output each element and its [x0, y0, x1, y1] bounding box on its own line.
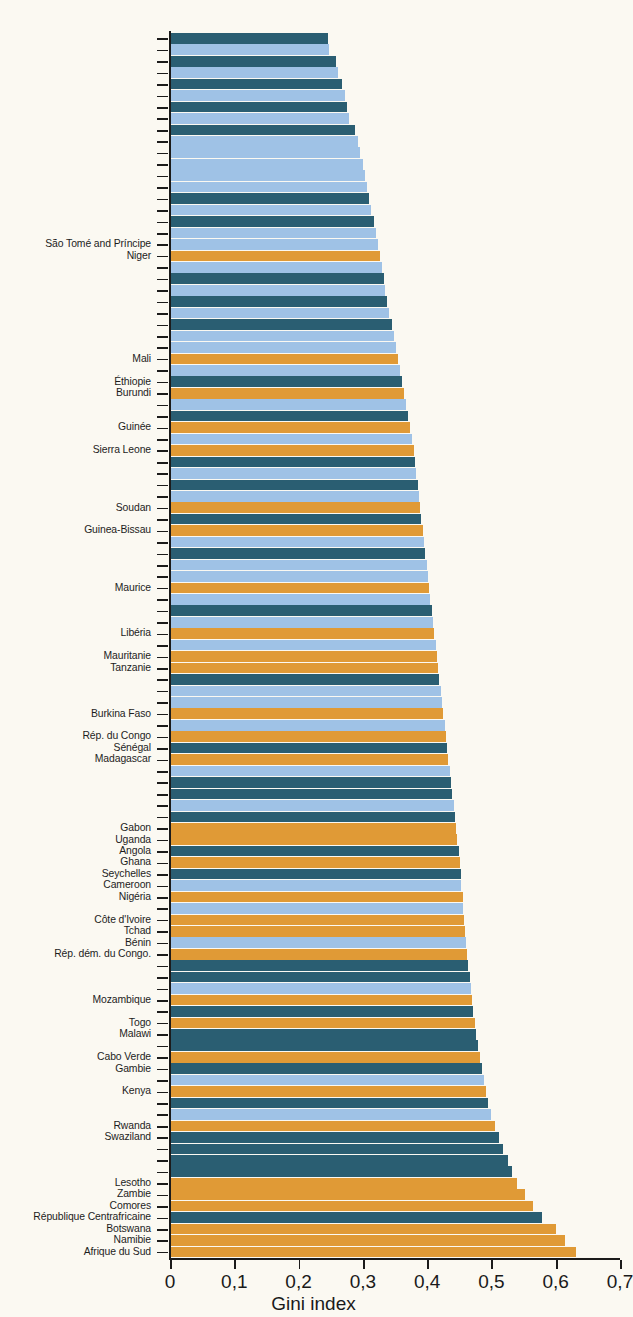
category-label: Cabo Verde — [97, 1052, 151, 1062]
y-axis-tick — [157, 702, 168, 704]
bar — [170, 583, 429, 594]
y-axis-tick — [157, 886, 168, 888]
y-axis-tick — [157, 1149, 168, 1151]
y-axis-tick — [157, 347, 168, 349]
y-axis-tick — [157, 794, 168, 796]
y-axis-tick — [157, 588, 168, 590]
bar — [170, 846, 459, 857]
category-label: Cameroon — [103, 880, 151, 890]
bar — [170, 743, 447, 754]
y-axis-tick — [157, 302, 168, 304]
y-axis-tick — [157, 199, 168, 201]
category-label: Uganda — [115, 835, 151, 845]
bar — [170, 1006, 473, 1017]
bar — [170, 812, 455, 823]
y-axis-tick — [157, 611, 168, 613]
y-axis-tick — [157, 290, 168, 292]
bar — [170, 147, 360, 158]
bar — [170, 182, 367, 193]
category-label: Malawi — [119, 1029, 151, 1039]
bar — [170, 1212, 542, 1223]
bar — [170, 1075, 484, 1086]
y-axis-tick — [157, 485, 168, 487]
category-label: Mali — [132, 354, 151, 364]
bar — [170, 1247, 576, 1258]
category-label: Guinea-Bissau — [84, 525, 151, 535]
y-axis-tick — [157, 1092, 168, 1094]
category-label: Maurice — [115, 583, 151, 593]
bar — [170, 205, 371, 216]
y-axis-tick — [157, 473, 168, 475]
category-label: Burundi — [116, 388, 151, 398]
y-axis-tick — [157, 634, 168, 636]
category-label: Gambie — [115, 1064, 151, 1074]
y-axis-tick — [157, 1080, 168, 1082]
bar — [170, 663, 438, 674]
y-axis-tick — [157, 1126, 168, 1128]
y-axis-spine — [169, 31, 171, 1260]
bar — [170, 388, 404, 399]
bar — [170, 800, 454, 811]
y-axis-tick — [157, 1057, 168, 1059]
x-axis-title: Gini index — [0, 1293, 627, 1314]
bar — [170, 915, 464, 926]
y-axis-tick — [157, 164, 168, 166]
y-axis-tick — [157, 141, 168, 143]
bar — [170, 113, 349, 124]
category-label: Guinée — [118, 422, 151, 432]
bar — [170, 926, 465, 937]
x-axis-tick — [620, 1260, 622, 1269]
y-axis-tick — [157, 977, 168, 979]
bar — [170, 422, 410, 433]
x-axis-tick — [427, 1260, 429, 1269]
category-label: Soudan — [116, 503, 151, 513]
y-axis-tick — [157, 531, 168, 533]
y-axis-tick — [157, 462, 168, 464]
x-axis-tick-label: 0,4 — [414, 1271, 440, 1292]
bar — [170, 880, 461, 891]
bar — [170, 262, 382, 273]
y-axis-tick — [157, 450, 168, 452]
y-axis-tick — [157, 153, 168, 155]
bar — [170, 869, 461, 880]
y-axis-tick — [157, 176, 168, 178]
y-axis-tick — [157, 370, 168, 372]
bar — [170, 1098, 488, 1109]
category-label: Rép. du Congo — [82, 731, 151, 741]
y-axis-tick — [157, 989, 168, 991]
category-label: Tchad — [124, 926, 151, 936]
y-axis-tick — [157, 691, 168, 693]
bar — [170, 640, 436, 651]
category-label: Gabon — [120, 823, 151, 833]
category-label: Angola — [119, 846, 151, 856]
y-axis-tick — [157, 222, 168, 224]
x-axis-tick — [363, 1260, 365, 1269]
bar — [170, 1166, 512, 1177]
bar — [170, 571, 428, 582]
bar — [170, 789, 452, 800]
category-label: São Tomé and Príncipe — [45, 239, 151, 249]
y-axis-tick — [157, 96, 168, 98]
bar — [170, 399, 406, 410]
bar — [170, 1063, 482, 1074]
y-axis-tick — [157, 405, 168, 407]
y-axis-tick — [157, 107, 168, 109]
bar — [170, 491, 419, 502]
bar — [170, 1040, 478, 1051]
x-axis-tick-label: 0,5 — [478, 1271, 504, 1292]
category-label: Swaziland — [105, 1132, 151, 1142]
bar — [170, 354, 398, 365]
bar — [170, 251, 380, 262]
y-axis-tick — [157, 542, 168, 544]
y-axis-tick — [157, 210, 168, 212]
bar — [170, 834, 457, 845]
category-label: Libéria — [121, 628, 152, 638]
y-axis-tick — [157, 599, 168, 601]
bar — [170, 239, 378, 250]
y-axis-tick — [157, 554, 168, 556]
bar — [170, 285, 385, 296]
y-axis-tick — [157, 1160, 168, 1162]
bar — [170, 296, 387, 307]
x-axis-tick-label: 0,2 — [285, 1271, 311, 1292]
